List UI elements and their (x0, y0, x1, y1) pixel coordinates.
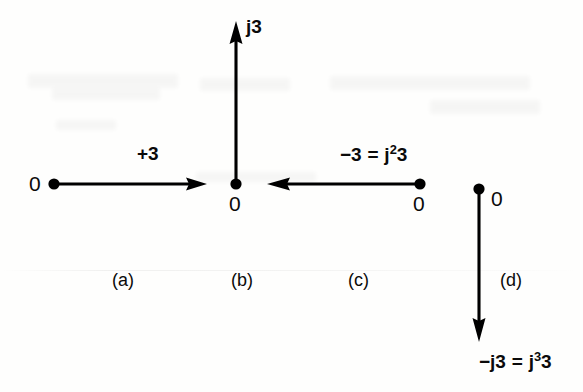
panel-a-origin-label: 0 (29, 173, 41, 194)
panel-d-origin-label: 0 (491, 188, 503, 209)
panel-c-vector-label-eq: = (367, 144, 378, 165)
panel-d-caption: (d) (500, 271, 522, 289)
panel-a-vector (48, 178, 207, 191)
panel-b-caption: (b) (231, 271, 253, 289)
panel-c-vector (267, 178, 426, 191)
panel-c-vector-label-magnitude: 3 (397, 144, 408, 165)
panel-c-origin-label: 0 (413, 193, 425, 214)
panel-c-vector-label-minus: −3 (340, 144, 362, 165)
panel-b-vector (230, 21, 243, 190)
panel-b-vector-label: j3 (246, 17, 262, 36)
panel-d-vector-label-minus: −j3 (479, 351, 506, 372)
panel-c-caption: (c) (348, 271, 369, 289)
panel-a-caption: (a) (112, 271, 134, 289)
panel-d-vector-label: −j3 = j33 (479, 351, 552, 371)
panel-a-vector-label: +3 (137, 144, 159, 163)
panel-b-origin-label: 0 (229, 193, 241, 214)
panel-d-vector (473, 183, 486, 342)
panel-c-vector-label-exponent: 2 (390, 142, 397, 157)
panel-d-vector-label-eq: = (512, 351, 523, 372)
panel-c-vector-label: −3 = j23 (340, 144, 407, 164)
figure-canvas: 0 +3 (a) 0 j3 (b) 0 −3 = j23 (c) 0 −j3 =… (0, 0, 583, 392)
panel-d-vector-label-magnitude: 3 (541, 351, 552, 372)
